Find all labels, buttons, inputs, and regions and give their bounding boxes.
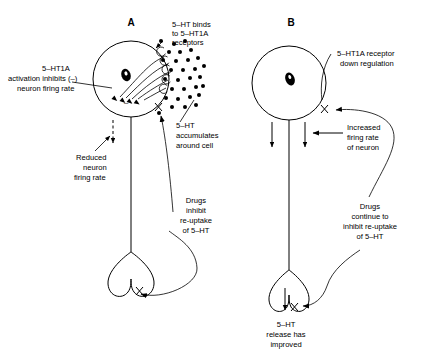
svg-text:5–HT: 5–HT <box>277 320 296 329</box>
svg-text:accumulates: accumulates <box>176 131 219 140</box>
svg-text:re-uptake: re-uptake <box>180 216 212 225</box>
panel-a-group: A – <box>8 17 219 296</box>
blocked-reuptake-marker-terminal-a <box>136 287 143 295</box>
leader-drugs-inhibit-terminal-a <box>141 231 197 295</box>
svg-text:receptors: receptors <box>172 38 204 47</box>
svg-text:of 5–HT: of 5–HT <box>182 226 209 235</box>
svg-text:improved: improved <box>270 340 301 349</box>
terminal-left-a <box>108 252 131 296</box>
leader-drugs-continue-terminal-b <box>303 250 360 306</box>
terminal-left-b <box>269 270 289 311</box>
svg-text:Drugs: Drugs <box>186 196 206 205</box>
annotation-ht-release-improved: 5–HT release has improved <box>266 320 305 349</box>
svg-text:of 5–HT: of 5–HT <box>356 232 383 241</box>
svg-text:5–HT binds: 5–HT binds <box>172 20 211 29</box>
svg-text:firing rate: firing rate <box>347 133 379 142</box>
svg-text:neuron: neuron <box>83 163 107 172</box>
panel-a-label: A <box>127 17 134 28</box>
svg-text:firing rate: firing rate <box>74 173 106 182</box>
blocked-reuptake-marker-terminal-b <box>291 303 298 311</box>
panel-b-group: B 5–HT1A receptor <box>252 17 397 349</box>
leader-down-regulation-b <box>321 54 331 100</box>
leader-drugs-inhibit-soma-a <box>161 116 173 212</box>
svg-text:5–HT: 5–HT <box>176 121 195 130</box>
blocked-receptor-marker-b <box>321 105 328 113</box>
svg-text:neuron firing rate: neuron firing rate <box>17 84 74 93</box>
svg-text:down regulation: down regulation <box>340 59 394 68</box>
svg-text:Increased: Increased <box>347 123 380 132</box>
leader-ht1a-activation-a <box>72 82 112 88</box>
annotation-ht1a-activation: 5–HT1A activation inhibits (–) neuron fi… <box>8 64 78 93</box>
terminal-right-b <box>289 270 309 311</box>
annotation-drugs-inhibit: Drugs inhibit re-uptake of 5–HT <box>180 196 212 235</box>
serotonin-molecules-a <box>157 39 206 115</box>
svg-text:activation inhibits (–): activation inhibits (–) <box>8 74 78 83</box>
annotation-ht-binds-receptors: 5–HT binds to 5–HT1A receptors <box>172 20 211 47</box>
terminal-right-a <box>131 252 154 296</box>
svg-text:inhibit: inhibit <box>186 206 207 215</box>
leader-reduced-firing-a <box>95 136 110 151</box>
annotation-ht-accumulates: 5–HT accumulates around cell <box>176 121 219 150</box>
svg-text:to 5–HT1A: to 5–HT1A <box>172 29 209 38</box>
svg-text:Reduced: Reduced <box>76 153 106 162</box>
svg-text:around cell: around cell <box>176 141 213 150</box>
svg-text:release has: release has <box>266 330 305 339</box>
svg-text:5–HT1A receptor: 5–HT1A receptor <box>337 49 395 58</box>
annotation-increased-firing: Increased firing rate of neuron <box>347 123 380 152</box>
panel-b-label: B <box>287 17 294 28</box>
neuron-diagram-svg: A – <box>0 0 431 360</box>
svg-text:inhibit re-uptake: inhibit re-uptake <box>343 222 397 231</box>
nucleus-b <box>283 71 296 87</box>
annotation-receptor-down-regulation: 5–HT1A receptor down regulation <box>337 49 395 68</box>
leader-ht-accumulates-a <box>180 100 194 122</box>
svg-text:Drugs: Drugs <box>360 202 380 211</box>
figure-canvas: A – <box>0 0 431 360</box>
annotation-reduced-firing: Reduced neuron firing rate <box>74 153 107 182</box>
annotation-drugs-continue: Drugs continue to inhibit re-uptake of 5… <box>343 202 397 241</box>
svg-text:of neuron: of neuron <box>347 143 379 152</box>
svg-text:continue to: continue to <box>351 212 388 221</box>
svg-text:5–HT1A: 5–HT1A <box>42 64 71 73</box>
